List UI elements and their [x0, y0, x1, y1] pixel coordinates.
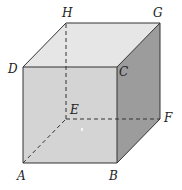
- vertex-label-g: G: [153, 7, 163, 19]
- speck-mark: [81, 128, 83, 131]
- cube-diagram: [0, 0, 182, 190]
- vertex-label-e: E: [70, 104, 79, 116]
- vertex-label-f: F: [164, 112, 172, 124]
- vertex-label-b: B: [109, 170, 118, 182]
- vertex-label-h: H: [62, 7, 72, 19]
- vertex-label-a: A: [17, 170, 26, 182]
- vertex-label-c: C: [119, 66, 128, 78]
- vertex-label-d: D: [8, 63, 18, 75]
